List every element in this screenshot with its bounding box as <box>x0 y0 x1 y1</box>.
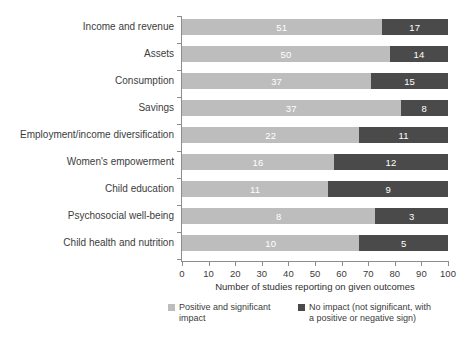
x-axis-tick-label: 30 <box>257 268 268 279</box>
bar-value-positive: 16 <box>182 154 334 170</box>
x-axis-tick-label: 10 <box>203 268 214 279</box>
bar-segment-positive: 8 <box>182 208 375 224</box>
bar-value-no-impact: 9 <box>328 181 448 197</box>
bar-value-positive: 8 <box>182 208 375 224</box>
legend-label-positive-line2: impact <box>179 313 206 323</box>
bar-row: 119 <box>182 181 448 197</box>
bar-row: 1612 <box>182 154 448 170</box>
category-label: Child education <box>0 181 174 197</box>
x-axis-tick-label: 80 <box>390 268 401 279</box>
bar-segment-no-impact: 5 <box>359 235 448 251</box>
legend-item-no-impact: No impact (not significant, with a posit… <box>298 302 448 324</box>
bar-value-no-impact: 5 <box>359 235 448 251</box>
chart-legend: Positive and significant impact No impac… <box>168 302 458 324</box>
y-axis-tick <box>177 178 182 179</box>
bar-segment-no-impact: 3 <box>375 208 448 224</box>
x-axis-tick-label: 100 <box>440 268 456 279</box>
legend-label-positive-line1: Positive and significant <box>179 302 271 312</box>
x-axis-tick-label: 0 <box>179 268 184 279</box>
x-axis-tick <box>235 262 236 266</box>
x-axis-tick-label: 40 <box>283 268 294 279</box>
bar-segment-positive: 51 <box>182 19 382 35</box>
y-axis-tick <box>177 124 182 125</box>
bar-value-positive: 37 <box>182 100 401 116</box>
bar-segment-positive: 16 <box>182 154 334 170</box>
bar-segment-positive: 22 <box>182 127 359 143</box>
bar-value-no-impact: 14 <box>390 46 448 62</box>
x-axis-tick <box>262 262 263 266</box>
category-label: Women's empowerment <box>0 154 174 170</box>
x-axis-tick-label: 60 <box>336 268 347 279</box>
bar-value-no-impact: 12 <box>334 154 448 170</box>
bar-segment-no-impact: 8 <box>401 100 448 116</box>
legend-label-no-impact: No impact (not significant, with a posit… <box>309 302 431 324</box>
bar-row: 83 <box>182 208 448 224</box>
bar-value-positive: 37 <box>182 73 371 89</box>
bar-value-positive: 10 <box>182 235 359 251</box>
x-axis-tick <box>288 262 289 266</box>
bar-value-positive: 51 <box>182 19 382 35</box>
legend-label-positive: Positive and significant impact <box>179 302 271 324</box>
bar-segment-no-impact: 14 <box>390 46 448 62</box>
stacked-bar-chart: 5117Income and revenue5014Assets3715Cons… <box>0 0 467 337</box>
y-axis-tick <box>177 232 182 233</box>
plot-area: 5117Income and revenue5014Assets3715Cons… <box>182 19 448 258</box>
category-label: Child health and nutrition <box>0 235 174 251</box>
category-label: Income and revenue <box>0 19 174 35</box>
x-axis-tick <box>448 262 449 266</box>
bar-value-no-impact: 15 <box>371 73 448 89</box>
bar-segment-positive: 11 <box>182 181 328 197</box>
bar-segment-positive: 10 <box>182 235 359 251</box>
x-axis-tick-label: 70 <box>363 268 374 279</box>
bar-segment-positive: 37 <box>182 100 401 116</box>
bar-row: 2211 <box>182 127 448 143</box>
bar-value-no-impact: 8 <box>401 100 448 116</box>
legend-swatch-positive <box>168 304 175 311</box>
legend-swatch-no-impact <box>298 304 305 311</box>
bar-value-no-impact: 3 <box>375 208 448 224</box>
bar-row: 378 <box>182 100 448 116</box>
category-label: Employment/income diversification <box>0 127 174 143</box>
y-axis-tick <box>177 43 182 44</box>
legend-label-no-impact-line2: a positive or negative sign) <box>309 313 416 323</box>
y-axis-tick <box>177 70 182 71</box>
x-axis-tick <box>182 262 183 266</box>
legend-item-positive: Positive and significant impact <box>168 302 288 324</box>
x-axis-title: Number of studies reporting on given out… <box>182 281 448 292</box>
category-label: Savings <box>0 100 174 116</box>
x-axis-tick <box>368 262 369 266</box>
bar-row: 3715 <box>182 73 448 89</box>
category-label: Consumption <box>0 73 174 89</box>
y-axis-tick <box>177 205 182 206</box>
bar-segment-positive: 37 <box>182 73 371 89</box>
bar-segment-no-impact: 9 <box>328 181 448 197</box>
bar-value-positive: 11 <box>182 181 328 197</box>
bar-row: 5014 <box>182 46 448 62</box>
category-label: Psychosocial well-being <box>0 208 174 224</box>
bar-row: 5117 <box>182 19 448 35</box>
bar-value-positive: 22 <box>182 127 359 143</box>
bar-value-no-impact: 11 <box>359 127 448 143</box>
x-axis-tick <box>421 262 422 266</box>
x-axis-tick-label: 90 <box>416 268 427 279</box>
y-axis-tick <box>177 16 182 17</box>
x-axis-tick <box>395 262 396 266</box>
x-axis-tick-label: 50 <box>310 268 321 279</box>
bar-segment-positive: 50 <box>182 46 390 62</box>
x-axis-tick-label: 20 <box>230 268 241 279</box>
bar-segment-no-impact: 12 <box>334 154 448 170</box>
bar-value-positive: 50 <box>182 46 390 62</box>
bar-value-no-impact: 17 <box>382 19 449 35</box>
bar-segment-no-impact: 15 <box>371 73 448 89</box>
legend-label-no-impact-line1: No impact (not significant, with <box>309 302 431 312</box>
x-axis-tick <box>209 262 210 266</box>
bar-segment-no-impact: 11 <box>359 127 448 143</box>
y-axis-tick <box>177 259 182 260</box>
bar-row: 105 <box>182 235 448 251</box>
y-axis-tick <box>177 151 182 152</box>
x-axis-tick <box>315 262 316 266</box>
x-axis-tick <box>342 262 343 266</box>
y-axis-tick <box>177 97 182 98</box>
bar-segment-no-impact: 17 <box>382 19 449 35</box>
category-label: Assets <box>0 46 174 62</box>
